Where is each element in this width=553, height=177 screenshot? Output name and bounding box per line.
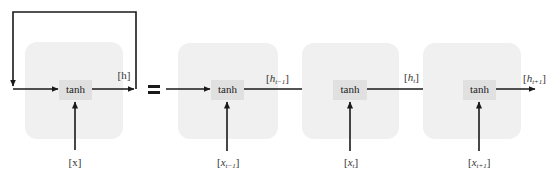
input-label: [xt] [344, 156, 358, 170]
unrolled-cell-t-plus-1: tanh [ht+1] [xt+1] [423, 43, 546, 170]
input-label: [x] [69, 156, 82, 168]
hidden-state-label: [ht] [404, 71, 419, 85]
input-label: [xt+1] [468, 156, 490, 170]
tanh-label: tanh [66, 83, 85, 95]
equals-sign [148, 85, 160, 94]
tanh-label: tanh [341, 83, 360, 95]
input-label: [xt−1] [217, 156, 239, 170]
rnn-diagram: tanh [h] [x] tanh [ht−1] [xt−1] tanh [0, 0, 553, 177]
tanh-label: tanh [218, 83, 237, 95]
tanh-label: tanh [470, 83, 489, 95]
folded-rnn-cell: tanh [h] [x] [13, 12, 136, 168]
hidden-state-label: [ht+1] [523, 72, 546, 86]
hidden-state-label: [h] [118, 69, 131, 81]
